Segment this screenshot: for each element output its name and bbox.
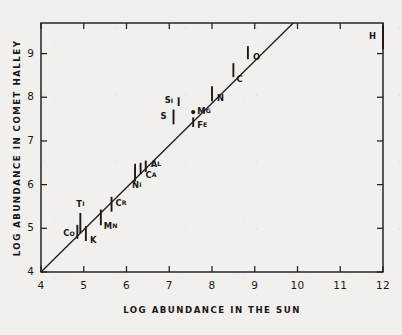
point-label-al: AL xyxy=(151,159,162,169)
point-label-c: C xyxy=(236,74,242,84)
y-tick-label: 7 xyxy=(27,134,34,146)
x-tick-label: 6 xyxy=(123,279,130,291)
point-label-ti: TI xyxy=(76,199,84,209)
point-label-fe: FE xyxy=(197,120,207,130)
point-label-ni: NI xyxy=(132,180,142,190)
data-point-o: O xyxy=(248,46,260,62)
data-point-s: S xyxy=(161,109,174,124)
point-label-suffix: I xyxy=(171,96,173,103)
axis-layer: 456789101112456789 xyxy=(27,23,390,291)
point-label-ca: CA xyxy=(146,170,157,180)
point-label-suffix: O xyxy=(70,229,75,236)
point-label-suffix: I xyxy=(139,181,141,188)
point-label-suffix: R xyxy=(122,199,127,206)
point-label-suffix: A xyxy=(152,171,157,178)
data-point-si: SI xyxy=(165,95,179,106)
point-label-si: SI xyxy=(165,95,174,105)
point-label-o: O xyxy=(253,52,260,62)
point-label-k: K xyxy=(90,235,97,245)
y-tick-label: 6 xyxy=(27,178,34,190)
data-point-cr: CR xyxy=(112,197,127,212)
data-point-co: CO xyxy=(63,225,77,239)
abundance-scatter-plot: 456789101112456789 COTIKMNCRNICAALSSIMGF… xyxy=(0,0,402,335)
point-label-mn: MN xyxy=(104,221,118,231)
point-label-mg: MG xyxy=(197,106,211,116)
x-tick-label: 5 xyxy=(80,279,87,291)
point-label-n: N xyxy=(217,93,224,103)
data-point-mn: MN xyxy=(101,210,118,231)
point-label-suffix: N xyxy=(112,222,117,229)
point-label-cr: CR xyxy=(116,198,127,208)
y-tick-label: 4 xyxy=(27,265,34,277)
x-tick-label: 7 xyxy=(166,279,173,291)
point-label-h: H xyxy=(369,31,376,41)
point-label-suffix: E xyxy=(203,121,207,128)
point-label-s: S xyxy=(161,111,167,121)
x-axis-title: LOG ABUNDANCE IN THE SUN xyxy=(123,305,301,315)
data-point-mg: MG xyxy=(191,106,211,116)
point-label-co: CO xyxy=(63,228,75,238)
x-tick-label: 8 xyxy=(209,279,216,291)
point-label-suffix: L xyxy=(157,160,161,167)
marker-mg xyxy=(191,110,195,114)
point-label-suffix: G xyxy=(206,107,211,114)
x-tick-label: 12 xyxy=(376,279,390,291)
y-tick-label: 9 xyxy=(27,47,34,59)
data-point-h: H xyxy=(369,25,383,49)
data-point-layer: COTIKMNCRNICAALSSIMGFENCOH xyxy=(63,25,383,245)
figure-container: 456789101112456789 COTIKMNCRNICAALSSIMGF… xyxy=(0,0,402,335)
y-tick-label: 8 xyxy=(27,90,34,102)
data-point-k: K xyxy=(86,226,97,245)
x-tick-label: 11 xyxy=(333,279,347,291)
x-tick-label: 4 xyxy=(38,279,45,291)
point-label-suffix: I xyxy=(82,200,84,207)
x-tick-label: 9 xyxy=(251,279,258,291)
y-tick-label: 5 xyxy=(27,221,34,233)
y-axis-title: LOG ABUNDANCE IN COMET HALLEY xyxy=(12,40,22,257)
x-tick-label: 10 xyxy=(291,279,305,291)
